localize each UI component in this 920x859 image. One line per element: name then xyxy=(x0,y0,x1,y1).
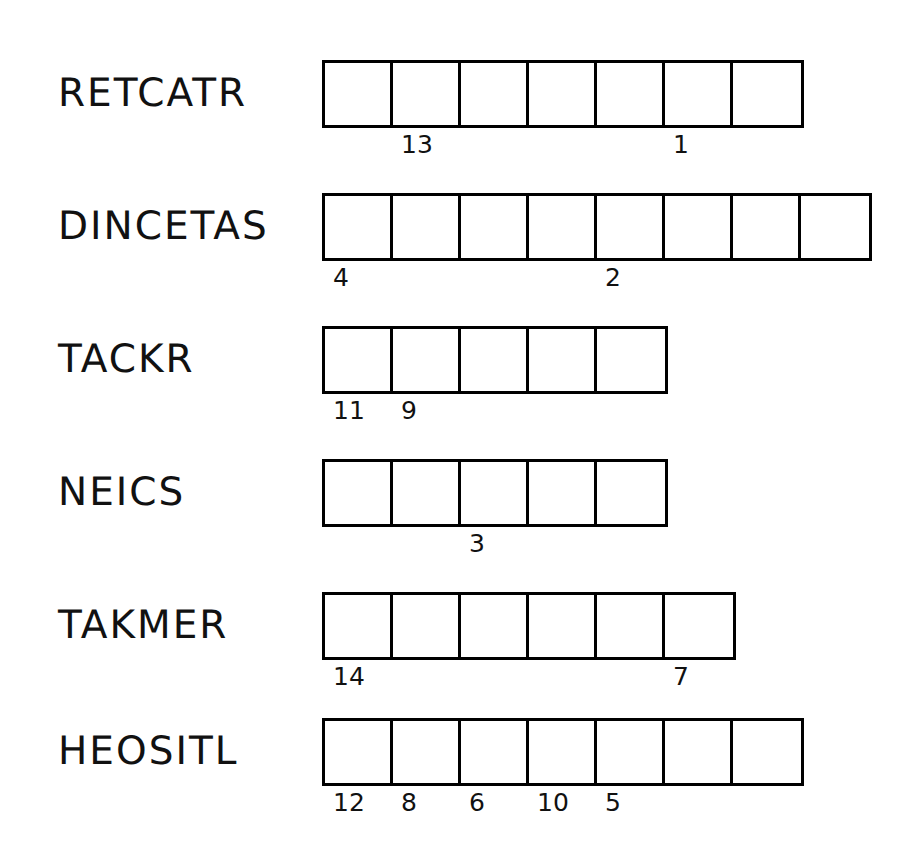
clue-number-strip: 1286105 xyxy=(322,786,798,820)
answer-box-cell[interactable] xyxy=(597,63,665,125)
answer-box-cell[interactable] xyxy=(665,196,733,258)
clue-number: 8 xyxy=(401,786,417,820)
answer-box-cell[interactable] xyxy=(461,196,529,258)
answer-box-cell[interactable] xyxy=(325,721,393,783)
answer-box-cell[interactable] xyxy=(325,329,393,391)
clue-number-strip: 147 xyxy=(322,660,730,694)
answer-box-cell[interactable] xyxy=(393,329,461,391)
answer-boxes-group xyxy=(322,60,804,128)
answer-box-cell[interactable] xyxy=(733,196,801,258)
answer-box-cell[interactable] xyxy=(665,595,733,657)
clue-number-strip: 3 xyxy=(322,527,662,561)
answer-box-cell[interactable] xyxy=(529,329,597,391)
row-word-label: TACKR xyxy=(58,326,195,394)
answer-boxes xyxy=(322,459,668,527)
clue-number: 6 xyxy=(469,786,485,820)
answer-box-cell[interactable] xyxy=(529,196,597,258)
clue-number: 1 xyxy=(673,128,689,162)
puzzle-row: HEOSITL1286105 xyxy=(0,718,920,851)
row-word-label: DINCETAS xyxy=(58,193,269,261)
answer-box-cell[interactable] xyxy=(461,462,529,524)
answer-box-cell[interactable] xyxy=(597,721,665,783)
answer-box-cell[interactable] xyxy=(393,63,461,125)
clue-number: 14 xyxy=(333,660,365,694)
answer-box-cell[interactable] xyxy=(461,329,529,391)
answer-box-cell[interactable] xyxy=(325,196,393,258)
answer-box-cell[interactable] xyxy=(393,595,461,657)
answer-box-cell[interactable] xyxy=(529,595,597,657)
answer-boxes-group xyxy=(322,592,736,660)
clue-number-strip: 119 xyxy=(322,394,662,428)
answer-box-cell[interactable] xyxy=(665,63,733,125)
answer-box-cell[interactable] xyxy=(597,462,665,524)
clue-number: 5 xyxy=(605,786,621,820)
answer-box-cell[interactable] xyxy=(325,63,393,125)
clue-number: 3 xyxy=(469,527,485,561)
answer-box-cell[interactable] xyxy=(665,721,733,783)
answer-box-cell[interactable] xyxy=(801,196,869,258)
answer-box-cell[interactable] xyxy=(393,721,461,783)
answer-boxes xyxy=(322,60,804,128)
clue-number: 13 xyxy=(401,128,433,162)
puzzle-row: DINCETAS42 xyxy=(0,193,920,326)
row-word-label: NEICS xyxy=(58,459,185,527)
answer-box-cell[interactable] xyxy=(597,595,665,657)
answer-boxes-group xyxy=(322,326,668,394)
answer-box-cell[interactable] xyxy=(529,462,597,524)
clue-number: 7 xyxy=(673,660,689,694)
answer-box-cell[interactable] xyxy=(461,721,529,783)
answer-box-cell[interactable] xyxy=(529,721,597,783)
puzzle-sheet: RETCATR131DINCETAS42TACKR119NEICS3TAKMER… xyxy=(0,0,920,859)
answer-box-cell[interactable] xyxy=(733,721,801,783)
answer-box-cell[interactable] xyxy=(597,329,665,391)
answer-boxes-group xyxy=(322,193,872,261)
row-word-label: TAKMER xyxy=(58,592,228,660)
answer-boxes-group xyxy=(322,459,668,527)
clue-number-strip: 131 xyxy=(322,128,798,162)
answer-box-cell[interactable] xyxy=(325,595,393,657)
answer-box-cell[interactable] xyxy=(529,63,597,125)
answer-box-cell[interactable] xyxy=(597,196,665,258)
answer-boxes-group xyxy=(322,718,804,786)
row-word-label: HEOSITL xyxy=(58,718,238,786)
answer-box-cell[interactable] xyxy=(461,595,529,657)
answer-box-cell[interactable] xyxy=(325,462,393,524)
answer-box-cell[interactable] xyxy=(461,63,529,125)
answer-boxes xyxy=(322,592,736,660)
puzzle-row: RETCATR131 xyxy=(0,60,920,193)
clue-number: 4 xyxy=(333,261,349,295)
clue-number: 10 xyxy=(537,786,569,820)
answer-box-cell[interactable] xyxy=(733,63,801,125)
answer-box-cell[interactable] xyxy=(393,196,461,258)
row-word-label: RETCATR xyxy=(58,60,247,128)
clue-number: 11 xyxy=(333,394,365,428)
answer-boxes xyxy=(322,326,668,394)
clue-number-strip: 42 xyxy=(322,261,866,295)
answer-box-cell[interactable] xyxy=(393,462,461,524)
answer-boxes xyxy=(322,193,872,261)
puzzle-row: NEICS3 xyxy=(0,459,920,592)
puzzle-row: TAKMER147 xyxy=(0,592,920,725)
clue-number: 9 xyxy=(401,394,417,428)
answer-boxes xyxy=(322,718,804,786)
clue-number: 2 xyxy=(605,261,621,295)
puzzle-row: TACKR119 xyxy=(0,326,920,459)
clue-number: 12 xyxy=(333,786,365,820)
